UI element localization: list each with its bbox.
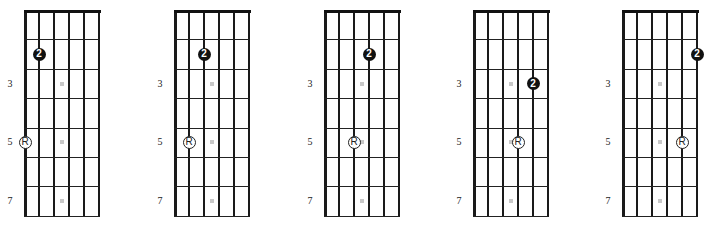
- fret-number-label: 3: [603, 79, 613, 89]
- fret-line: [324, 216, 400, 217]
- inlay-dot-icon: [360, 82, 364, 86]
- root-note-marker: R: [512, 136, 525, 149]
- fret-line: [324, 128, 400, 129]
- nut: [473, 10, 550, 13]
- root-note-marker: R: [19, 136, 32, 149]
- inlay-dot-icon: [658, 199, 662, 203]
- inlay-dot-icon: [60, 140, 64, 144]
- fret-line: [174, 216, 250, 217]
- fret-line: [473, 157, 549, 158]
- fret-number-label: 3: [305, 79, 315, 89]
- fret-line: [622, 186, 698, 187]
- fret-line: [24, 128, 100, 129]
- nut: [174, 10, 251, 13]
- fret-line: [473, 98, 549, 99]
- fret-number-label: 5: [155, 137, 165, 147]
- fret-number-label: 5: [305, 137, 315, 147]
- fret-line: [324, 69, 400, 70]
- fret-line: [24, 98, 100, 99]
- fret-line: [174, 39, 250, 40]
- fret-line: [174, 128, 250, 129]
- fret-number-label: 3: [155, 79, 165, 89]
- diagram-4: 357R2: [449, 0, 559, 232]
- fret-line: [622, 39, 698, 40]
- fret-line: [174, 186, 250, 187]
- fretboard-grid: R2: [24, 10, 100, 216]
- inlay-dot-icon: [210, 82, 214, 86]
- fret-line: [174, 69, 250, 70]
- inlay-dot-icon: [210, 140, 214, 144]
- fret-line: [622, 69, 698, 70]
- inlay-dot-icon: [658, 82, 662, 86]
- fret-number-label: 5: [5, 137, 15, 147]
- fret-line: [622, 128, 698, 129]
- inlay-dot-icon: [60, 82, 64, 86]
- fret-line: [473, 69, 549, 70]
- fret-line: [622, 216, 698, 217]
- fret-line: [174, 157, 250, 158]
- finger-marker: 2: [527, 77, 540, 90]
- inlay-dot-icon: [658, 140, 662, 144]
- diagram-1: 357R2: [0, 0, 110, 232]
- fret-line: [622, 98, 698, 99]
- diagram-2: 357R2: [150, 0, 260, 232]
- fretboard-grid: R2: [324, 10, 400, 216]
- inlay-dot-icon: [509, 82, 513, 86]
- fret-number-label: 3: [5, 79, 15, 89]
- fret-line: [24, 216, 100, 217]
- finger-marker: 2: [33, 48, 46, 61]
- fret-line: [622, 157, 698, 158]
- fret-line: [324, 157, 400, 158]
- fret-line: [324, 98, 400, 99]
- diagram-5: 357R2: [598, 0, 708, 232]
- inlay-dot-icon: [60, 199, 64, 203]
- fret-number-label: 7: [454, 196, 464, 206]
- nut: [24, 10, 101, 13]
- finger-marker: 2: [363, 48, 376, 61]
- root-note-marker: R: [183, 136, 196, 149]
- nut: [324, 10, 401, 13]
- inlay-dot-icon: [509, 199, 513, 203]
- fret-line: [24, 157, 100, 158]
- fret-number-label: 5: [603, 137, 613, 147]
- finger-marker: 2: [691, 48, 704, 61]
- root-note-marker: R: [348, 136, 361, 149]
- fretboard-grid: R2: [622, 10, 698, 216]
- fret-number-label: 5: [454, 137, 464, 147]
- fret-line: [24, 186, 100, 187]
- fret-line: [473, 216, 549, 217]
- nut: [622, 10, 699, 13]
- fret-number-label: 7: [5, 196, 15, 206]
- fret-line: [174, 98, 250, 99]
- finger-marker: 2: [198, 48, 211, 61]
- fret-line: [24, 69, 100, 70]
- fret-line: [324, 186, 400, 187]
- diagram-3: 357R2: [300, 0, 410, 232]
- fret-line: [324, 39, 400, 40]
- fret-line: [473, 128, 549, 129]
- fret-line: [24, 39, 100, 40]
- fret-number-label: 3: [454, 79, 464, 89]
- inlay-dot-icon: [360, 199, 364, 203]
- fret-line: [473, 39, 549, 40]
- fret-number-label: 7: [305, 196, 315, 206]
- fret-number-label: 7: [603, 196, 613, 206]
- inlay-dot-icon: [210, 199, 214, 203]
- fretboard-grid: R2: [174, 10, 250, 216]
- root-note-marker: R: [676, 136, 689, 149]
- fret-number-label: 7: [155, 196, 165, 206]
- fret-line: [473, 186, 549, 187]
- fretboard-grid: R2: [473, 10, 549, 216]
